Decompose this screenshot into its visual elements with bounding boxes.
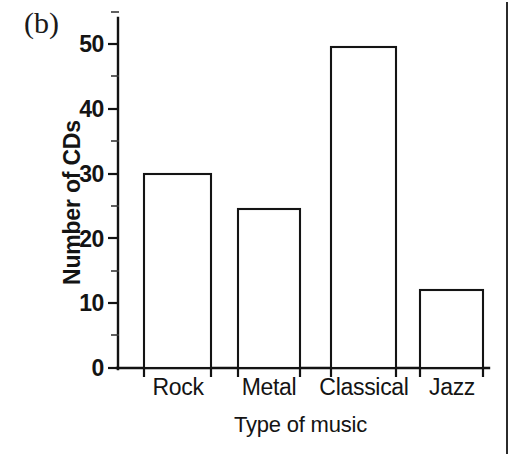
x-category-label-classical: Classical [311, 374, 417, 400]
x-axis-title: Type of music [118, 412, 483, 438]
bar-classical [331, 47, 396, 368]
x-category-label-metal: Metal [225, 374, 313, 400]
bar-jazz [420, 290, 483, 368]
page-gutter-line [506, 2, 508, 454]
bar-metal [238, 209, 300, 368]
x-category-label-jazz: Jazz [412, 374, 492, 400]
bar-rock [144, 174, 211, 368]
bar-chart-figure: (b) Number of CDs 50 40 30 20 10 0 [0, 0, 519, 461]
x-category-label-rock: Rock [134, 374, 222, 400]
